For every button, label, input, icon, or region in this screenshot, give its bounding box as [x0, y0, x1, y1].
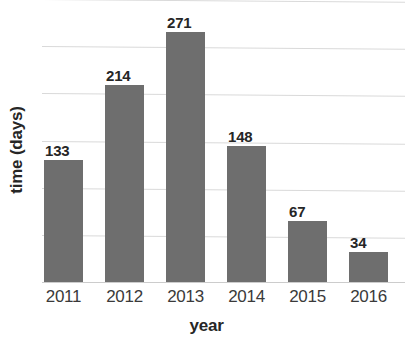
x-tick-label-2016: 2016	[341, 287, 396, 307]
bar	[166, 32, 205, 283]
gridline	[42, 93, 405, 97]
gridline	[42, 188, 405, 192]
gridline	[42, 141, 405, 145]
bar-value-label: 34	[350, 235, 366, 250]
x-axis-line	[42, 282, 405, 283]
x-axis-title: year	[0, 316, 413, 336]
x-tick-label-2011: 2011	[36, 287, 91, 307]
bar-value-label: 148	[228, 129, 252, 144]
bar	[44, 160, 83, 283]
bar-chart: time (days) 1332142711486734 20112012201…	[0, 0, 413, 345]
bar-value-label: 271	[167, 15, 191, 30]
x-tick-label-2015: 2015	[280, 287, 335, 307]
bar	[288, 221, 327, 283]
x-tick-label-2012: 2012	[97, 287, 152, 307]
bar-value-label: 67	[289, 204, 305, 219]
bar	[349, 252, 388, 283]
gridline	[42, 46, 405, 50]
bar-value-label: 214	[106, 68, 130, 83]
x-tick-label-2013: 2013	[158, 287, 213, 307]
y-axis-title: time (days)	[7, 70, 27, 230]
x-tick-label-2014: 2014	[219, 287, 274, 307]
bar	[105, 85, 144, 283]
bar-value-label: 133	[45, 143, 69, 158]
bar	[227, 146, 266, 283]
gridline	[42, 0, 405, 3]
